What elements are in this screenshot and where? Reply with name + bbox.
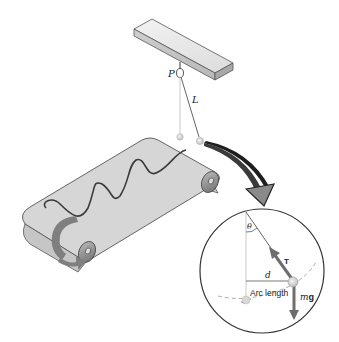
label-arc-length: Arc length <box>250 288 289 298</box>
rest-bob <box>177 134 183 140</box>
label-pivot: P <box>167 68 175 79</box>
magnified-view: θ d T mg Arc length <box>200 209 324 333</box>
magnified-rest-bob <box>242 296 250 304</box>
pendulum-bob <box>196 137 203 144</box>
magnified-bob <box>288 277 298 287</box>
label-angle: θ <box>247 222 252 231</box>
pendulum-diagram: P L θ <box>0 0 339 342</box>
label-displacement: d <box>265 270 271 280</box>
pivot <box>177 62 184 78</box>
label-length: L <box>191 94 199 105</box>
label-tension: T <box>284 257 289 266</box>
pendulum-string <box>181 77 199 137</box>
label-weight: mg <box>300 292 314 302</box>
paper-belt <box>22 138 219 272</box>
